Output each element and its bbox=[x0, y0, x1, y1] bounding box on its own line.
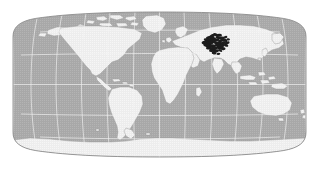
landmass-tasmania bbox=[278, 118, 284, 121]
world-map-figure: Robinson Central Asia highlighted patche… bbox=[0, 0, 319, 172]
world-map-canvas bbox=[0, 0, 319, 172]
